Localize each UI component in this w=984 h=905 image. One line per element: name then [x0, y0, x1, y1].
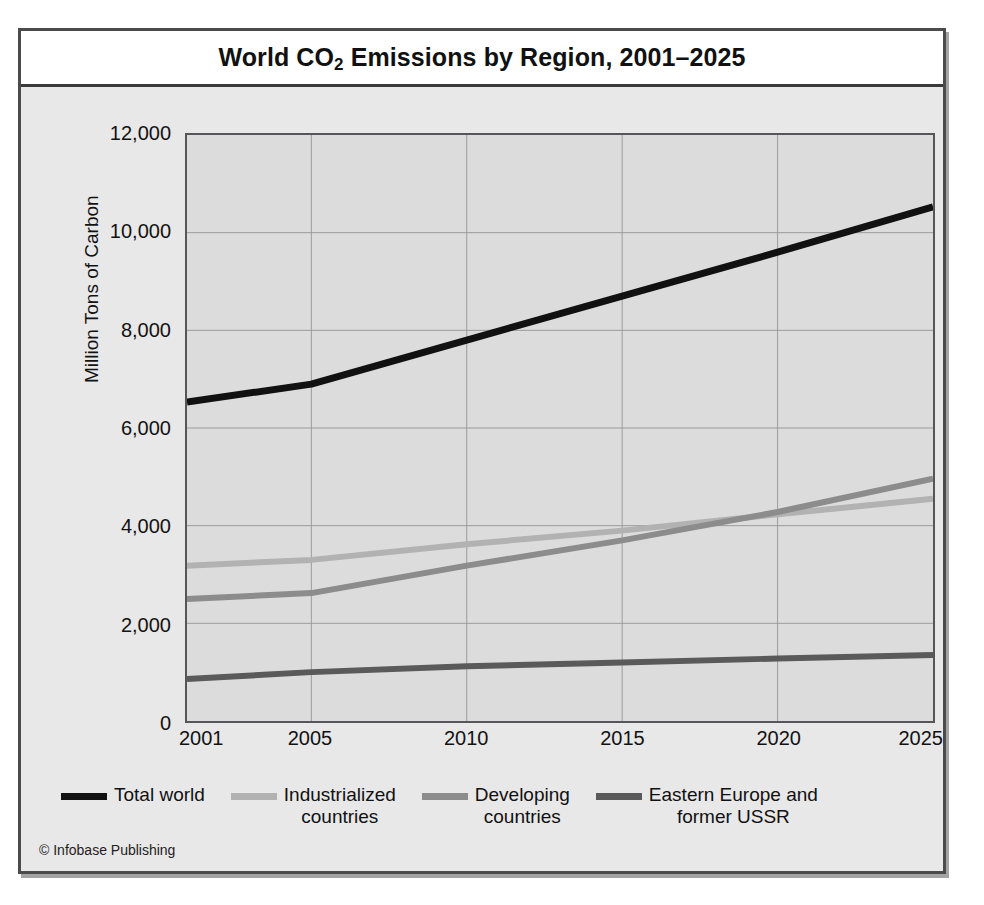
y-axis-tick-label: 0: [63, 712, 183, 735]
legend-swatch-icon: [61, 793, 107, 800]
x-axis-tick-label: 2001: [179, 727, 224, 750]
series-line: [187, 655, 933, 679]
legend-label: Developingcountries: [475, 784, 570, 828]
legend-item[interactable]: Industrializedcountries: [231, 784, 396, 828]
plot-area-wrapper: Million Tons of Carbon 02,0004,0006,0008…: [185, 133, 935, 723]
x-axis-tick-label: 2020: [757, 727, 802, 750]
plot-area: [185, 133, 935, 723]
legend-label: Industrializedcountries: [284, 784, 396, 828]
page-title: World CO2 Emissions by Region, 2001–2025: [218, 43, 745, 72]
legend-label: Total world: [114, 784, 205, 806]
y-axis-tick-label: 2,000: [63, 613, 183, 636]
x-axis-tick-label: 2025: [899, 727, 944, 750]
legend-swatch-icon: [422, 793, 468, 800]
series-line: [187, 499, 933, 566]
legend-swatch-icon: [596, 793, 642, 800]
x-axis-tick-label: 2015: [600, 727, 645, 750]
series-line: [187, 207, 933, 402]
legend-swatch-icon: [231, 793, 277, 800]
title-subscript: 2: [334, 55, 344, 74]
y-axis-tick-label: 6,000: [63, 417, 183, 440]
legend-item[interactable]: Developingcountries: [422, 784, 570, 828]
y-axis-tick-label: 12,000: [63, 122, 183, 145]
chart-figure: World CO2 Emissions by Region, 2001–2025…: [18, 28, 946, 874]
y-axis-tick-label: 8,000: [63, 318, 183, 341]
legend-label: Eastern Europe andformer USSR: [649, 784, 818, 828]
legend-item[interactable]: Eastern Europe andformer USSR: [596, 784, 818, 828]
x-axis-tick-label: 2010: [444, 727, 489, 750]
chart-legend: Total worldIndustrializedcountriesDevelo…: [61, 784, 911, 828]
title-text-main: World CO: [218, 43, 334, 71]
title-text-rest: Emissions by Region, 2001–2025: [344, 43, 746, 71]
legend-item[interactable]: Total world: [61, 784, 205, 806]
chart-title-band: World CO2 Emissions by Region, 2001–2025: [21, 31, 943, 87]
chart-canvas: [187, 135, 933, 721]
y-axis-tick-label: 10,000: [63, 220, 183, 243]
chart-body: Million Tons of Carbon 02,0004,0006,0008…: [21, 87, 943, 874]
y-axis-tick-label: 4,000: [63, 515, 183, 538]
copyright-credit: © Infobase Publishing: [39, 842, 175, 858]
x-axis-tick-label: 2005: [288, 727, 333, 750]
